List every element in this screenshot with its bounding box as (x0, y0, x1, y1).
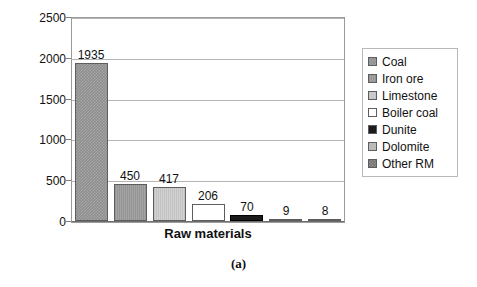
bar-dunite (230, 215, 263, 221)
legend-item-label: Limestone (382, 90, 437, 102)
legend-item-boiler-coal[interactable]: Boiler coal (368, 104, 454, 121)
x-axis-baseline (72, 221, 344, 222)
y-axis-tick-label: 500 (20, 175, 66, 187)
y-axis-tick-label: 0 (20, 216, 66, 228)
bar-other-rm (308, 219, 341, 221)
bar-value-label: 206 (198, 190, 218, 202)
bar-value-label: 70 (240, 201, 253, 213)
legend-item-label: Other RM (382, 158, 434, 170)
gridline (72, 181, 344, 182)
y-axis-tick-label: 2000 (20, 53, 66, 65)
y-axis-tick-labels: 05001000150020002500 (14, 0, 66, 287)
bar-value-label: 450 (120, 170, 140, 182)
iron-ore-swatch (368, 74, 377, 83)
bar-limestone (153, 187, 186, 221)
legend-item-label: Dunite (382, 124, 417, 136)
figure-caption: (a) (0, 256, 477, 272)
legend-item-other-rm[interactable]: Other RM (368, 155, 454, 172)
bar-value-label: 8 (322, 205, 329, 217)
coal-swatch (368, 57, 377, 66)
gridline (72, 18, 344, 19)
dunite-swatch (368, 125, 377, 134)
limestone-swatch (368, 91, 377, 100)
y-axis-tick-label: 1500 (20, 94, 66, 106)
gridline (72, 140, 344, 141)
bar-chart-figure: Rs. per tonn 05001000150020002500 193545… (0, 0, 477, 287)
bar-value-label: 417 (159, 173, 179, 185)
dolomite-swatch (368, 142, 377, 151)
other-rm-swatch (368, 159, 377, 168)
bar-boiler-coal (192, 204, 225, 221)
legend-item-label: Iron ore (382, 73, 423, 85)
y-axis-tick-label: 1000 (20, 134, 66, 146)
legend-item-iron-ore[interactable]: Iron ore (368, 70, 454, 87)
bar-value-label: 1935 (78, 49, 105, 61)
legend-item-label: Boiler coal (382, 107, 438, 119)
y-axis-tick-label: 2500 (20, 12, 66, 24)
gridline (72, 59, 344, 60)
plot-area: 19354504172067098 (71, 17, 345, 223)
bar-coal (75, 63, 108, 221)
gridline (72, 100, 344, 101)
legend-item-dunite[interactable]: Dunite (368, 121, 454, 138)
bar-value-label: 9 (283, 205, 290, 217)
boiler-coal-swatch (368, 108, 377, 117)
legend-item-limestone[interactable]: Limestone (368, 87, 454, 104)
legend-item-label: Coal (382, 56, 407, 68)
legend-item-coal[interactable]: Coal (368, 53, 454, 70)
legend-item-label: Dolomite (382, 141, 429, 153)
bar-dolomite (269, 219, 302, 221)
x-axis-title: Raw materials (71, 226, 345, 241)
legend: CoalIron oreLimestoneBoiler coalDuniteDo… (362, 48, 458, 177)
legend-item-dolomite[interactable]: Dolomite (368, 138, 454, 155)
bar-iron-ore (114, 184, 147, 221)
